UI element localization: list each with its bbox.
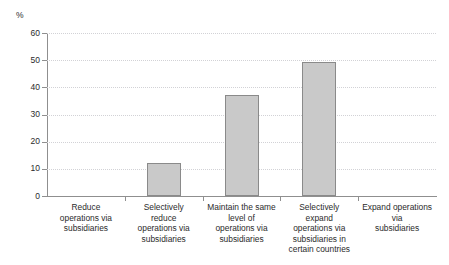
x-axis-tick-mark: [125, 196, 126, 201]
y-axis-tick-label: 40: [6, 83, 40, 92]
gridline: [47, 60, 436, 61]
gridline: [47, 33, 436, 34]
bar: [225, 95, 259, 196]
y-axis-tick-label: 10: [6, 164, 40, 173]
x-axis-category-label: Maintain the samelevel ofoperations vias…: [203, 202, 281, 244]
category-label-line: operations via: [125, 223, 203, 234]
x-axis-category-label: Expand operationsviasubsidiaries: [358, 202, 436, 234]
category-label-line: expand: [280, 213, 358, 224]
category-label-line: subsidiaries: [203, 234, 281, 245]
x-axis-category-labels: Reduceoperations viasubsidiariesSelectiv…: [47, 202, 437, 264]
y-axis-tick-mark: [42, 60, 47, 61]
bar-chart: % 6050403020100 Reduceoperations viasubs…: [0, 0, 449, 265]
y-axis-tick-mark: [42, 196, 47, 197]
category-label-line: operations via: [47, 213, 125, 224]
category-label-line: Selectively: [125, 202, 203, 213]
y-axis-tick-labels: 6050403020100: [0, 0, 40, 265]
y-axis-tick-label: 20: [6, 137, 40, 146]
category-label-line: reduce: [125, 213, 203, 224]
category-label-line: operations via: [280, 223, 358, 234]
y-axis-tick-label: 30: [6, 110, 40, 119]
category-label-line: operations via: [203, 223, 281, 234]
category-label-line: Reduce: [47, 202, 125, 213]
category-label-line: subsidiaries: [358, 223, 436, 234]
y-axis-tick-mark: [42, 142, 47, 143]
category-label-line: certain countries: [280, 244, 358, 255]
x-axis-category-label: Reduceoperations viasubsidiaries: [47, 202, 125, 234]
y-axis-tick-label: 0: [6, 192, 40, 201]
x-axis-category-label: Selectivelyreduceoperations viasubsidiar…: [125, 202, 203, 244]
category-label-line: via: [358, 213, 436, 224]
category-label-line: Selectively: [280, 202, 358, 213]
category-label-line: subsidiaries in: [280, 234, 358, 245]
bar: [147, 163, 181, 196]
x-axis-tick-mark: [203, 196, 204, 201]
bar: [302, 62, 336, 196]
category-label-line: subsidiaries: [47, 223, 125, 234]
category-label-line: level of: [203, 213, 281, 224]
y-axis-tick-label: 50: [6, 56, 40, 65]
axis-baseline: [47, 196, 436, 197]
x-axis-tick-mark: [280, 196, 281, 201]
x-axis-tick-mark: [358, 196, 359, 201]
y-axis-tick-label: 60: [6, 29, 40, 38]
category-label-line: Expand operations: [358, 202, 436, 213]
x-axis-category-label: Selectivelyexpandoperations viasubsidiar…: [280, 202, 358, 255]
y-axis-tick-mark: [42, 33, 47, 34]
y-axis-tick-mark: [42, 169, 47, 170]
y-axis-tick-mark: [42, 115, 47, 116]
gridline: [47, 87, 436, 88]
y-axis-tick-mark: [42, 87, 47, 88]
category-label-line: Maintain the same: [203, 202, 281, 213]
category-label-line: subsidiaries: [125, 234, 203, 245]
plot-area: [47, 33, 436, 196]
